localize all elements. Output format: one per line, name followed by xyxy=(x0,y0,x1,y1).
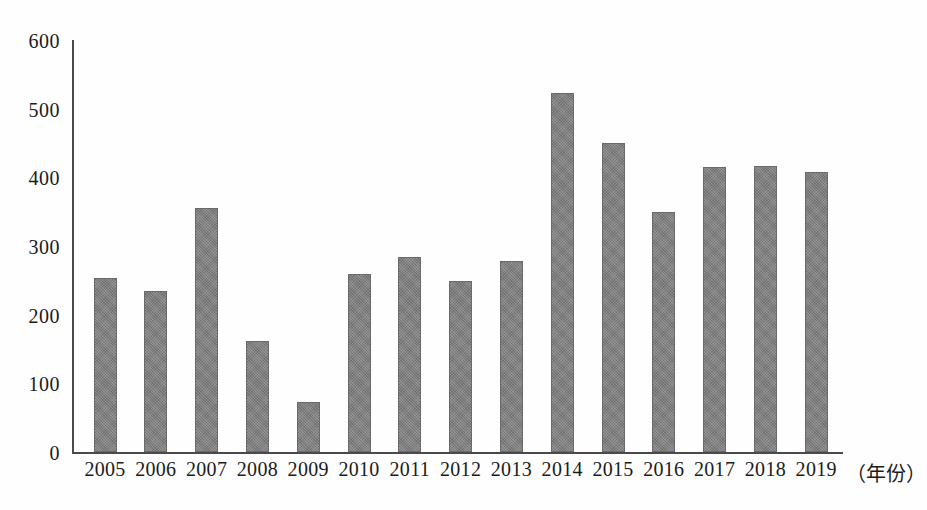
y-tick-label: 300 xyxy=(29,236,61,259)
x-tick-label: 2010 xyxy=(338,458,379,481)
x-tick-label: 2012 xyxy=(440,458,481,481)
x-tick-label: 2015 xyxy=(592,458,633,481)
bar xyxy=(805,172,828,452)
y-axis-labels: 0100200300400500600 xyxy=(0,40,72,454)
x-tick-label: 2008 xyxy=(237,458,278,481)
bar xyxy=(652,212,675,452)
x-tick-label: 2014 xyxy=(542,458,583,481)
bar xyxy=(398,257,421,452)
y-tick-label: 500 xyxy=(29,98,61,121)
x-tick-label: 2007 xyxy=(186,458,227,481)
bar xyxy=(195,208,218,452)
bar xyxy=(703,167,726,452)
y-tick-label: 400 xyxy=(29,167,61,190)
y-tick-label: 600 xyxy=(29,30,61,53)
bar xyxy=(602,143,625,452)
x-axis-labels: 2005200620072008200920102011201220132014… xyxy=(0,458,927,492)
x-tick-label: 2013 xyxy=(491,458,532,481)
y-tick-label: 200 xyxy=(29,304,61,327)
bar xyxy=(551,93,574,452)
chart-page: 0100200300400500600 20052006200720082009… xyxy=(0,0,927,510)
y-axis-line xyxy=(72,40,74,454)
x-tick-label: 2009 xyxy=(288,458,329,481)
bar xyxy=(246,341,269,452)
bar xyxy=(297,402,320,452)
x-axis-unit-label: （年份） xyxy=(846,458,926,487)
bar xyxy=(754,166,777,452)
x-tick-label: 2019 xyxy=(796,458,837,481)
bar xyxy=(348,274,371,452)
x-tick-label: 2006 xyxy=(135,458,176,481)
bar xyxy=(449,281,472,452)
bar xyxy=(144,291,167,452)
x-tick-label: 2016 xyxy=(643,458,684,481)
bar xyxy=(94,278,117,452)
bar xyxy=(500,261,523,452)
x-tick-label: 2005 xyxy=(84,458,125,481)
x-tick-label: 2017 xyxy=(694,458,735,481)
x-tick-label: 2011 xyxy=(390,458,430,481)
plot-area xyxy=(72,40,843,454)
y-tick-label: 100 xyxy=(29,373,61,396)
x-axis-line xyxy=(72,452,843,454)
x-tick-label: 2018 xyxy=(745,458,786,481)
